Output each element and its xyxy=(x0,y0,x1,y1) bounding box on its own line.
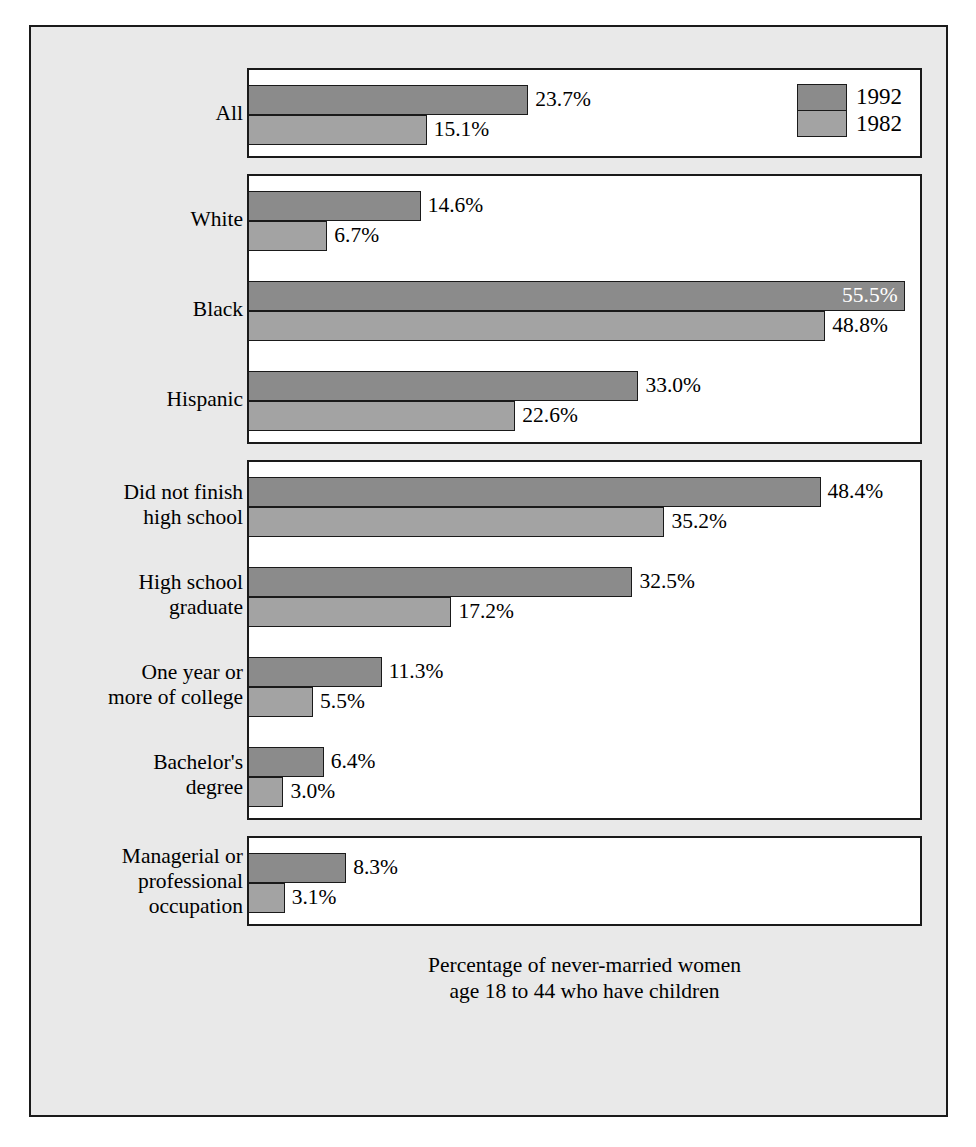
legend-swatch-1982[interactable] xyxy=(798,111,846,136)
bar-group: 48.4%35.2% xyxy=(249,477,920,537)
bar-1992[interactable] xyxy=(248,371,638,401)
caption-line-1: Percentage of never-married women xyxy=(247,952,922,978)
category-label-line: Black xyxy=(31,297,243,322)
bar-row: 6.7% xyxy=(249,221,920,251)
category-label-line: occupation xyxy=(31,894,243,919)
bar-value-label: 3.0% xyxy=(290,781,335,803)
category-label-line: graduate xyxy=(31,595,243,620)
chart-panel-education: 48.4%35.2%32.5%17.2%11.3%5.5%6.4%3.0% xyxy=(247,460,922,820)
bar-1992[interactable] xyxy=(248,567,632,597)
chart-panel-overall: 23.7%15.1%19921982 xyxy=(247,68,922,158)
bar-row: 11.3% xyxy=(249,657,920,687)
category-label-line: professional xyxy=(31,869,243,894)
category-label-line: All xyxy=(31,101,243,126)
category-label-line: Did not finish xyxy=(31,480,243,505)
bar-value-label: 22.6% xyxy=(522,405,578,427)
bar-value-label: 6.7% xyxy=(334,225,379,247)
category-label-line: High school xyxy=(31,570,243,595)
bar-value-label: 23.7% xyxy=(535,89,591,111)
bar-value-label: 48.8% xyxy=(832,315,888,337)
bar-1982[interactable] xyxy=(248,115,427,145)
bar-group: 55.5%48.8% xyxy=(249,281,920,341)
legend-label-column: 19921982 xyxy=(856,84,902,137)
bar-1992[interactable] xyxy=(248,191,421,221)
legend-label-1992: 1992 xyxy=(856,84,902,111)
category-label-line: Bachelor's xyxy=(31,750,243,775)
bar-1992[interactable] xyxy=(248,85,528,115)
caption-line-2: age 18 to 44 who have children xyxy=(247,978,922,1004)
bar-group: 8.3%3.1% xyxy=(249,853,920,913)
bar-value-label: 15.1% xyxy=(434,119,490,141)
bar-1982[interactable] xyxy=(248,401,515,431)
bar-row: 22.6% xyxy=(249,401,920,431)
category-label-line: degree xyxy=(31,775,243,800)
bar-row: 32.5% xyxy=(249,567,920,597)
chart-figure: 23.7%15.1%1992198214.6%6.7%55.5%48.8%33.… xyxy=(29,25,948,1117)
bar-1982[interactable] xyxy=(248,597,451,627)
bar-value-label: 6.4% xyxy=(331,751,376,773)
bar-value-label: 48.4% xyxy=(828,481,884,503)
bar-1982[interactable] xyxy=(248,777,283,807)
bar-value-label: 8.3% xyxy=(353,857,398,879)
bar-value-label: 3.1% xyxy=(292,887,337,909)
bar-row: 14.6% xyxy=(249,191,920,221)
bar-row: 35.2% xyxy=(249,507,920,537)
category-label: Hispanic xyxy=(31,387,243,412)
bar-1992[interactable] xyxy=(248,657,382,687)
bar-row: 5.5% xyxy=(249,687,920,717)
chart-caption: Percentage of never-married women age 18… xyxy=(247,952,922,1004)
bar-1982[interactable] xyxy=(248,221,327,251)
bar-value-label: 55.5% xyxy=(842,285,898,307)
bar-group: 33.0%22.6% xyxy=(249,371,920,431)
bar-1982[interactable] xyxy=(248,311,825,341)
legend-label-1982: 1982 xyxy=(856,111,902,138)
category-label-line: White xyxy=(31,207,243,232)
bar-value-label: 32.5% xyxy=(639,571,695,593)
bar-value-label: 14.6% xyxy=(428,195,484,217)
bar-group: 6.4%3.0% xyxy=(249,747,920,807)
bar-value-label: 5.5% xyxy=(320,691,365,713)
bar-1982[interactable] xyxy=(248,883,285,913)
category-label: One year ormore of college xyxy=(31,660,243,710)
bar-value-label: 11.3% xyxy=(389,661,444,683)
bar-row: 33.0% xyxy=(249,371,920,401)
category-label: Did not finishhigh school xyxy=(31,480,243,530)
bar-row: 48.4% xyxy=(249,477,920,507)
bar-group: 11.3%5.5% xyxy=(249,657,920,717)
bar-row: 3.1% xyxy=(249,883,920,913)
legend-swatch-column xyxy=(797,84,847,137)
category-label-line: more of college xyxy=(31,685,243,710)
bar-1992[interactable] xyxy=(248,477,821,507)
bar-row: 3.0% xyxy=(249,777,920,807)
bar-1982[interactable] xyxy=(248,687,313,717)
legend-swatch-1992[interactable] xyxy=(798,85,846,111)
bar-1992[interactable] xyxy=(248,281,905,311)
bar-row: 6.4% xyxy=(249,747,920,777)
chart-panel-race-ethnicity: 14.6%6.7%55.5%48.8%33.0%22.6% xyxy=(247,174,922,444)
bar-row: 55.5% xyxy=(249,281,920,311)
category-label-line: high school xyxy=(31,505,243,530)
bar-row: 17.2% xyxy=(249,597,920,627)
category-label: Bachelor'sdegree xyxy=(31,750,243,800)
bar-group: 14.6%6.7% xyxy=(249,191,920,251)
bar-value-label: 33.0% xyxy=(645,375,701,397)
category-label: All xyxy=(31,101,243,126)
chart-legend: 19921982 xyxy=(797,84,902,137)
bar-group: 32.5%17.2% xyxy=(249,567,920,627)
chart-panel-occupation: 8.3%3.1% xyxy=(247,836,922,926)
bar-row: 48.8% xyxy=(249,311,920,341)
bar-1992[interactable] xyxy=(248,747,324,777)
bar-row: 8.3% xyxy=(249,853,920,883)
bar-1992[interactable] xyxy=(248,853,346,883)
category-label: High schoolgraduate xyxy=(31,570,243,620)
category-label-line: Managerial or xyxy=(31,844,243,869)
category-label: Black xyxy=(31,297,243,322)
category-label-line: Hispanic xyxy=(31,387,243,412)
bar-value-label: 35.2% xyxy=(671,511,727,533)
category-label-line: One year or xyxy=(31,660,243,685)
category-label: Managerial orprofessionaloccupation xyxy=(31,844,243,919)
bar-value-label: 17.2% xyxy=(458,601,514,623)
bar-1982[interactable] xyxy=(248,507,664,537)
category-label: White xyxy=(31,207,243,232)
